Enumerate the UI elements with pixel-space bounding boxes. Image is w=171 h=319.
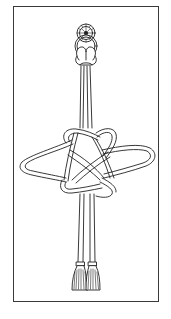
right-tassel-icon bbox=[86, 262, 100, 290]
lower-cords bbox=[78, 194, 95, 262]
left-tassel-icon bbox=[72, 262, 88, 290]
knot-illustration bbox=[0, 0, 171, 319]
illustration-canvas bbox=[0, 0, 171, 319]
knot-icon bbox=[20, 129, 155, 198]
upper-cords bbox=[80, 66, 92, 128]
cord-loop-icon bbox=[76, 47, 97, 65]
